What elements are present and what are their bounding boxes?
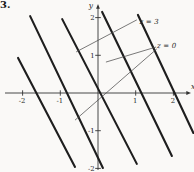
level-label: z = 3: [138, 18, 159, 26]
level-line: [30, 16, 103, 168]
x-axis-label: x: [191, 82, 194, 91]
y-tick-label: -2: [88, 165, 95, 172]
x-axis-arrow-icon: [186, 91, 191, 95]
level-line: [62, 19, 137, 164]
y-tick-label: 1: [90, 52, 94, 60]
level-curves-plot: -2-11221-1-2z = 3z = 0yx: [0, 0, 194, 172]
y-axis-arrow-icon: [96, 4, 100, 9]
leader-line: [75, 49, 157, 120]
level-line: [138, 15, 193, 133]
level-label: z = 0: [156, 42, 177, 50]
x-tick-label: -2: [19, 97, 26, 105]
leader-line: [76, 20, 137, 52]
x-tick-label: -1: [56, 97, 63, 105]
level-line: [18, 58, 75, 167]
leader-line: [106, 47, 156, 62]
y-tick-label: 2: [90, 14, 94, 22]
level-line: [102, 12, 172, 156]
y-tick-label: -1: [88, 127, 95, 135]
x-tick-label: 2: [171, 97, 175, 105]
y-axis-label: y: [88, 1, 94, 10]
problem-number: 3.: [0, 0, 10, 10]
textbook-figure: 3. -2-11221-1-2z = 3z = 0yx: [0, 0, 194, 172]
x-tick-label: 1: [133, 97, 137, 105]
